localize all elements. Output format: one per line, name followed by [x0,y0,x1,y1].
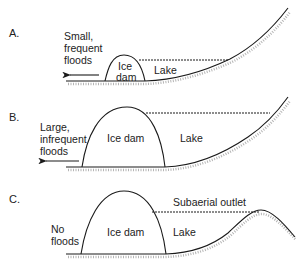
panel-c-label: C. [9,193,20,205]
panel-c: C. No floods Subaerial outlet Ice dam La… [9,191,296,257]
lake-c-text: Lake [173,226,196,238]
panel-c-flood-text-2: floods [51,235,79,247]
panel-a-flood-text-3: floods [64,54,92,66]
lake-b-text: Lake [180,132,203,144]
ice-dam-flood-diagram: A. Small, frequent floods Ice dam Lake B… [0,0,308,268]
panel-b-flood-text-1: Large, [40,121,70,133]
panel-a-flood-text-2: frequent [64,42,103,54]
panel-a-label: A. [9,27,19,39]
panel-a: A. Small, frequent floods Ice dam Lake [9,8,290,84]
ground-line-b [66,97,288,167]
panel-b-flood-text-3: floods [40,145,68,157]
panel-a-flood-text-1: Small, [64,30,93,42]
ice-dam-b-text: Ice dam [107,132,145,144]
panel-b: B. Large, infrequent floods Ice dam Lake [9,97,290,170]
ground-stipple-b [68,101,290,170]
panel-c-flood-text-1: No [51,223,65,235]
panel-b-flood-text-2: infrequent [40,133,87,145]
lake-a-text: Lake [154,64,177,76]
ice-dam-a-text-2: dam [116,71,137,83]
subaerial-outlet-text: Subaerial outlet [173,196,246,208]
ice-dam-c [81,191,166,254]
ice-dam-c-text: Ice dam [107,226,145,238]
panel-b-label: B. [9,111,19,123]
